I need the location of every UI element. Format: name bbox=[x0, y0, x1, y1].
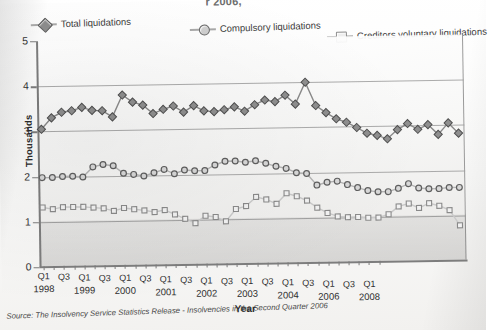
data-point bbox=[40, 205, 45, 210]
data-point bbox=[274, 201, 279, 206]
data-point bbox=[293, 170, 299, 176]
data-point bbox=[427, 201, 432, 206]
data-point bbox=[304, 171, 310, 177]
data-point bbox=[98, 107, 106, 115]
x-axis-year-label: 2002 bbox=[196, 287, 217, 298]
data-point bbox=[91, 205, 96, 210]
data-point bbox=[437, 203, 442, 208]
data-point bbox=[315, 205, 320, 210]
data-point bbox=[118, 91, 126, 99]
x-axis-quarter-label: Q1 bbox=[119, 273, 131, 283]
y-axis-title: Thousands bbox=[22, 96, 34, 186]
data-point bbox=[373, 131, 381, 139]
data-point bbox=[159, 105, 167, 113]
data-point bbox=[447, 208, 452, 213]
y-axis-tick-label: 5 bbox=[14, 34, 28, 46]
data-point bbox=[90, 164, 96, 170]
data-point bbox=[222, 158, 228, 164]
x-axis-quarter-label: Q3 bbox=[58, 272, 70, 282]
data-point bbox=[322, 109, 330, 117]
data-point bbox=[284, 191, 289, 196]
data-point bbox=[110, 163, 116, 169]
x-axis-quarter-label: Q1 bbox=[363, 279, 375, 289]
x-axis-quarter-label: Q1 bbox=[282, 277, 294, 287]
x-axis-quarter-label: Q1 bbox=[241, 276, 253, 286]
data-point bbox=[385, 189, 391, 195]
data-point bbox=[345, 215, 350, 220]
data-point bbox=[193, 221, 198, 226]
data-point bbox=[101, 206, 106, 211]
data-point bbox=[70, 173, 76, 179]
x-axis-quarter-label: Q1 bbox=[200, 275, 212, 285]
x-axis-quarter-label: Q3 bbox=[221, 276, 233, 286]
data-point bbox=[375, 189, 381, 195]
data-point bbox=[334, 178, 340, 184]
data-point bbox=[294, 194, 299, 199]
x-axis-quarter-label: Q1 bbox=[78, 272, 90, 282]
x-axis-quarter-label: Q3 bbox=[99, 273, 111, 283]
data-point bbox=[426, 186, 432, 192]
x-axis-year-label: 1999 bbox=[74, 284, 95, 295]
data-point bbox=[457, 223, 462, 228]
data-point bbox=[49, 175, 55, 181]
data-point bbox=[230, 103, 238, 111]
data-point bbox=[182, 167, 188, 173]
data-point bbox=[108, 113, 116, 121]
data-point bbox=[128, 98, 136, 106]
data-series-layer bbox=[36, 35, 466, 268]
data-point bbox=[183, 216, 188, 221]
x-axis-year-label: 2000 bbox=[115, 285, 136, 296]
data-point bbox=[253, 158, 259, 164]
legend-label-total-liquidations: Total liquidations bbox=[61, 16, 132, 29]
data-point bbox=[141, 173, 147, 179]
data-point bbox=[312, 101, 320, 109]
data-point bbox=[344, 182, 350, 188]
data-point bbox=[301, 78, 309, 86]
data-point bbox=[416, 205, 421, 210]
data-point bbox=[202, 168, 208, 174]
data-point bbox=[263, 160, 269, 166]
data-point bbox=[242, 159, 248, 165]
data-point bbox=[396, 204, 401, 209]
data-point bbox=[261, 96, 269, 104]
circle-marker-icon bbox=[190, 23, 216, 35]
data-point bbox=[171, 171, 177, 177]
data-point bbox=[172, 212, 177, 217]
data-point bbox=[414, 125, 422, 133]
x-axis-quarter-label: Q1 bbox=[160, 274, 172, 284]
data-point bbox=[325, 210, 330, 215]
data-point bbox=[233, 206, 238, 211]
data-point bbox=[353, 123, 361, 131]
data-point bbox=[169, 102, 177, 110]
data-point bbox=[314, 182, 320, 188]
data-point bbox=[386, 212, 391, 217]
data-point bbox=[254, 194, 259, 199]
data-point bbox=[50, 207, 55, 212]
legend-item-total-liquidations[interactable]: Total liquidations bbox=[31, 16, 132, 30]
data-point bbox=[403, 119, 411, 127]
data-point bbox=[244, 204, 249, 209]
data-point bbox=[273, 163, 279, 169]
data-point bbox=[436, 186, 442, 192]
data-point bbox=[57, 108, 65, 116]
x-axis-quarter-label: Q3 bbox=[343, 279, 355, 289]
y-axis-tick-label: 0 bbox=[17, 260, 31, 272]
data-point bbox=[304, 198, 309, 203]
y-axis-tick-label: 4 bbox=[15, 80, 29, 92]
data-point bbox=[131, 171, 137, 177]
data-point bbox=[406, 201, 411, 206]
x-axis-quarter-label: Q3 bbox=[302, 278, 314, 288]
x-axis-year-label: 1998 bbox=[33, 283, 54, 294]
data-point bbox=[121, 205, 126, 210]
data-point bbox=[366, 215, 371, 220]
data-point bbox=[240, 107, 248, 115]
data-point bbox=[335, 214, 340, 219]
data-point bbox=[283, 165, 289, 171]
legend-item-compulsory-liquidations[interactable]: Compulsory liquidations bbox=[190, 20, 321, 36]
data-point bbox=[121, 170, 127, 176]
data-point bbox=[223, 219, 228, 224]
data-point bbox=[406, 181, 412, 187]
data-point bbox=[200, 107, 208, 115]
data-point bbox=[324, 179, 330, 185]
data-point bbox=[456, 184, 462, 190]
